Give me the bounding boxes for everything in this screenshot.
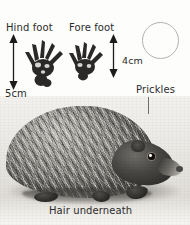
hedgehog-identification-figure: Hind foot Fore foot 5cm 4cm Prickles Hai… [0, 0, 190, 225]
label-hind-foot: Hind foot [6, 22, 53, 33]
label-fore-foot: Fore foot [69, 22, 114, 33]
hind-footprint-icon [22, 38, 66, 90]
label-prickles: Prickles [136, 84, 175, 95]
hind-foot-measure-arrow [8, 34, 19, 90]
fore-footprint-icon [66, 41, 106, 83]
measurement-label-fore-foot: 4cm [122, 55, 143, 66]
fore-foot-measure-arrow [108, 34, 119, 78]
prickles-leader-line-icon [148, 97, 149, 114]
empty-circle-outline-icon [142, 22, 179, 59]
label-hair-underneath: Hair underneath [49, 205, 132, 216]
measurement-label-hind-foot: 5cm [5, 88, 27, 99]
